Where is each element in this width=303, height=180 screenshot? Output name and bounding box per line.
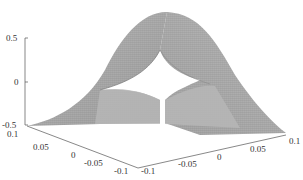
y-tick-label: 0.1 <box>289 136 300 146</box>
y-tick-label: 0.05 <box>250 144 266 154</box>
right-floor-axis: -0.1 -0.05 0 0.05 0.1 <box>138 135 300 176</box>
x-tick-label: 0.1 <box>7 129 18 139</box>
x-tick-label: 0 <box>71 150 76 160</box>
x-tick-label: 0.05 <box>33 142 49 152</box>
z-tick-label: 0 <box>14 77 19 87</box>
y-tick-label: 0 <box>217 152 222 162</box>
z-tick-label: 0.5 <box>6 33 18 43</box>
surface-plot: 0.5 0 -0.5 0.1 0.05 0 -0.05 -0.1 -0.1 -0… <box>0 0 303 180</box>
y-tick-label: -0.05 <box>178 159 197 169</box>
surface-mesh <box>27 12 286 135</box>
z-axis: 0.5 0 -0.5 <box>2 33 28 130</box>
x-tick-label: -0.1 <box>114 166 128 176</box>
y-tick-label: -0.1 <box>141 166 155 176</box>
x-tick-label: -0.05 <box>84 158 103 168</box>
left-floor-axis: 0.1 0.05 0 -0.05 -0.1 <box>7 126 138 176</box>
